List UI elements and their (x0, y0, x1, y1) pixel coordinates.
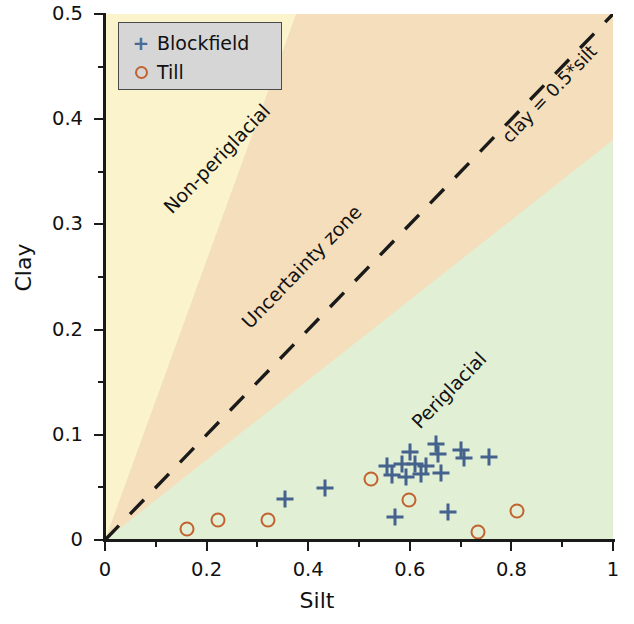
data-point-blockfield (481, 448, 498, 465)
y-tick-label-1: 0.1 (15, 423, 83, 446)
y-tick-minor-0 (98, 486, 105, 488)
data-point-blockfield (432, 464, 449, 481)
y-tick-label-2: 0.2 (15, 318, 83, 341)
data-point-blockfield (455, 449, 472, 466)
y-tick-major-4 (94, 118, 105, 120)
legend-label-blockfield: Blockfield (157, 32, 249, 54)
data-point-blockfield (386, 508, 403, 525)
x-tick-major-4 (510, 540, 512, 551)
circle-marker-icon (128, 62, 154, 82)
data-point-till (260, 513, 275, 528)
y-tick-minor-2 (98, 276, 105, 278)
plot-area: Non-periglacial Uncertainty zone Perigla… (105, 14, 613, 540)
y-tick-major-1 (94, 434, 105, 436)
data-point-blockfield (317, 480, 334, 497)
x-tick-minor-4 (561, 540, 563, 547)
data-point-till (180, 522, 195, 537)
x-tick-major-2 (307, 540, 309, 551)
x-tick-minor-3 (460, 540, 462, 547)
x-tick-minor-2 (358, 540, 360, 547)
y-tick-label-0: 0 (15, 528, 83, 551)
y-tick-major-5 (94, 13, 105, 15)
data-point-blockfield (440, 503, 457, 520)
plus-marker-icon: + (128, 33, 154, 53)
legend: + Blockfield Till (118, 22, 282, 90)
y-tick-major-2 (94, 329, 105, 331)
x-tick-minor-0 (155, 540, 157, 547)
y-tick-label-5: 0.5 (15, 2, 83, 25)
data-point-blockfield (430, 445, 447, 462)
data-point-till (364, 471, 379, 486)
x-tick-major-1 (206, 540, 208, 551)
data-point-till (510, 503, 525, 518)
x-tick-minor-1 (256, 540, 258, 547)
x-tick-major-0 (104, 540, 106, 551)
x-tick-label-3: 0.6 (370, 558, 450, 581)
y-tick-minor-3 (98, 171, 105, 173)
data-point-till (210, 513, 225, 528)
y-tick-label-4: 0.4 (15, 107, 83, 130)
x-axis-title: Silt (0, 588, 634, 613)
x-tick-major-5 (612, 540, 614, 551)
data-point-till (401, 493, 416, 508)
data-point-blockfield (276, 490, 293, 507)
legend-label-till: Till (157, 61, 184, 83)
x-tick-label-2: 0.4 (268, 558, 348, 581)
x-tick-major-3 (409, 540, 411, 551)
y-tick-major-3 (94, 223, 105, 225)
chart-figure: Non-periglacial Uncertainty zone Perigla… (0, 0, 634, 624)
x-tick-label-1: 0.2 (167, 558, 247, 581)
y-tick-minor-4 (98, 66, 105, 68)
legend-item-blockfield: + Blockfield (128, 28, 281, 57)
x-tick-label-5: 1 (573, 558, 634, 581)
x-tick-label-0: 0 (65, 558, 145, 581)
y-tick-minor-1 (98, 381, 105, 383)
data-point-till (471, 524, 486, 539)
y-axis-title: Clay (11, 218, 36, 318)
legend-item-till: Till (128, 57, 281, 86)
x-tick-label-4: 0.8 (471, 558, 551, 581)
